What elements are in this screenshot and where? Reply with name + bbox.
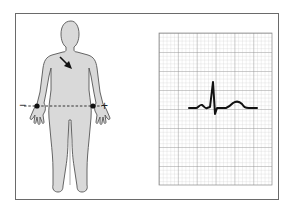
ecg-strip <box>0 0 290 209</box>
